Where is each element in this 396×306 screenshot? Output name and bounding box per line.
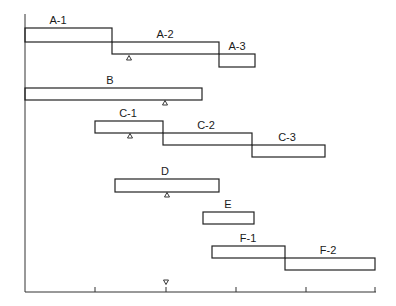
task-bar-a1 <box>25 28 112 42</box>
triangle-down-icon <box>164 280 169 285</box>
gantt-diagram: A-1 A-2 A-3 B C-1 C-2 C-3 D E F-1 F-2 <box>0 0 396 306</box>
task-label-f2: F-2 <box>320 244 337 256</box>
task-group-f: F-1 F-2 <box>212 232 375 270</box>
task-label-d: D <box>161 165 169 177</box>
triangle-up-icon <box>128 134 133 139</box>
task-bar-b <box>25 88 202 100</box>
task-label-e: E <box>224 198 231 210</box>
task-group-d: D <box>115 165 219 192</box>
x-axis-ticks <box>95 287 375 292</box>
task-bar-c3 <box>252 145 325 157</box>
task-bar-f1 <box>212 246 285 258</box>
task-label-c1: C-1 <box>119 107 137 119</box>
task-label-a1: A-1 <box>49 14 66 26</box>
task-bar-c2 <box>163 133 252 145</box>
task-bar-f2 <box>285 258 375 270</box>
task-group-e: E <box>203 198 254 224</box>
task-bar-d <box>115 179 219 192</box>
triangle-up-icon <box>163 101 168 106</box>
task-bar-e <box>203 212 254 224</box>
task-bar-a2 <box>112 42 219 54</box>
task-group-c: C-1 C-2 C-3 <box>95 107 325 157</box>
task-group-b: B <box>25 74 202 100</box>
task-group-a: A-1 A-2 A-3 <box>25 14 255 67</box>
task-label-a2: A-2 <box>156 28 173 40</box>
task-label-a3: A-3 <box>228 40 245 52</box>
triangle-up-icon <box>165 193 170 198</box>
task-bar-c1 <box>95 121 163 133</box>
triangle-up-icon <box>127 56 132 61</box>
task-label-b: B <box>106 74 113 86</box>
task-label-f1: F-1 <box>240 232 257 244</box>
task-label-c2: C-2 <box>197 119 215 131</box>
task-label-c3: C-3 <box>278 131 296 143</box>
task-bar-a3 <box>219 54 255 67</box>
